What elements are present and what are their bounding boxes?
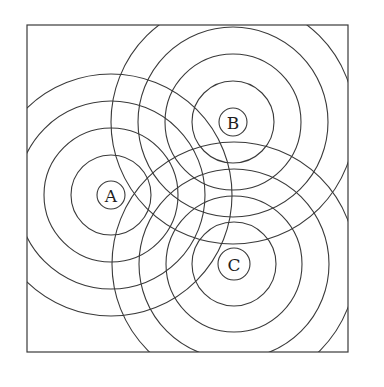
wave-ring-diagram: A B C: [0, 0, 384, 387]
source-label-a: A: [104, 186, 118, 206]
source-label-b: B: [227, 113, 240, 133]
diagram-frame: [27, 25, 348, 352]
labels-layer: A B C: [104, 113, 241, 275]
rings-layer: [0, 0, 356, 386]
source-label-c: C: [227, 255, 240, 275]
